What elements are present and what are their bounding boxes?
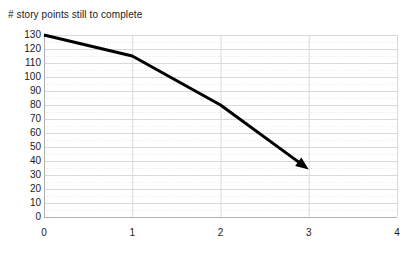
x-tick-label: 0 [34,228,54,238]
x-tick-label: 2 [211,228,231,238]
x-tick-label: 3 [299,228,319,238]
x-tick-label: 1 [122,228,142,238]
burndown-chart: # story points still to complete 0102030… [0,0,408,256]
x-tick-label: 4 [387,228,407,238]
x-axis-tick-labels: 01234 [0,0,408,256]
